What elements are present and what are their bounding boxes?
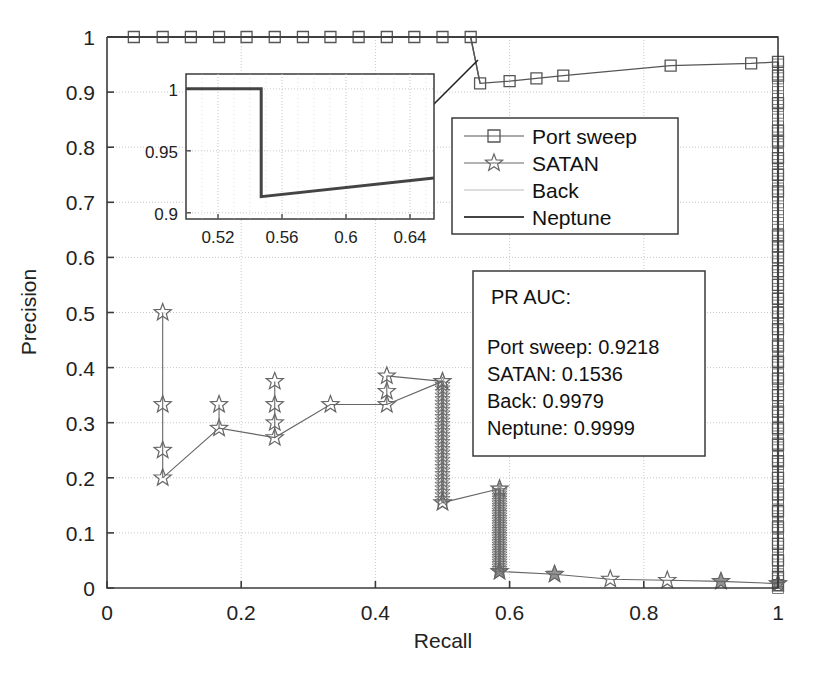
legend-box: Port sweepSATANBackNeptune [452,118,678,234]
y-tick-label: 0.9 [66,81,95,104]
y-tick-label: 0.8 [66,136,95,159]
x-tick-label: 0.4 [361,601,391,624]
inset-y-tick-label: 0.95 [145,143,178,162]
x-tick-label: 0 [101,601,113,624]
inset-y-tick-label: 0.9 [154,205,178,224]
y-tick-label: 0.7 [66,191,95,214]
inset-y-tick-label: 1 [169,81,178,100]
inset-x-tick-label: 0.56 [265,228,298,247]
legend-entry-label: SATAN [532,152,599,175]
inset-frame [186,74,434,219]
x-axis-title: Recall [414,629,472,652]
pr-curve-figure: 00.10.20.30.40.50.60.70.80.9100.20.40.60… [0,0,817,675]
auc-box-row: Port sweep: 0.9218 [487,336,659,358]
y-axis-title: Precision [17,269,40,355]
auc-box-title: PR AUC: [491,286,571,308]
auc-box-row: Neptune: 0.9999 [487,417,635,439]
x-tick-label: 0.8 [629,601,658,624]
y-tick-label: 0.5 [66,302,95,325]
precision-recall-chart: 00.10.20.30.40.50.60.70.80.9100.20.40.60… [0,0,817,675]
y-tick-label: 0.6 [66,246,95,269]
inset-x-tick-label: 0.64 [393,228,426,247]
x-tick-label: 0.2 [227,601,256,624]
y-tick-label: 0.1 [66,522,95,545]
legend-entry-label: Back [532,179,579,202]
x-tick-label: 0.6 [495,601,524,624]
auc-box-row: SATAN: 0.1536 [487,363,623,385]
inset-x-tick-label: 0.6 [334,228,358,247]
x-tick-label: 1 [772,601,784,624]
y-tick-label: 0 [83,577,95,600]
legend-entry-label: Neptune [532,206,611,229]
y-tick-label: 0.4 [66,357,96,380]
auc-box-row: Back: 0.9979 [487,390,604,412]
pr-auc-box: PR AUC:Port sweep: 0.9218SATAN: 0.1536Ba… [473,271,705,456]
y-tick-label: 1 [83,26,95,49]
y-tick-label: 0.3 [66,412,95,435]
y-tick-label: 0.2 [66,467,95,490]
inset-x-tick-label: 0.52 [201,228,234,247]
legend-entry-label: Port sweep [532,125,637,148]
